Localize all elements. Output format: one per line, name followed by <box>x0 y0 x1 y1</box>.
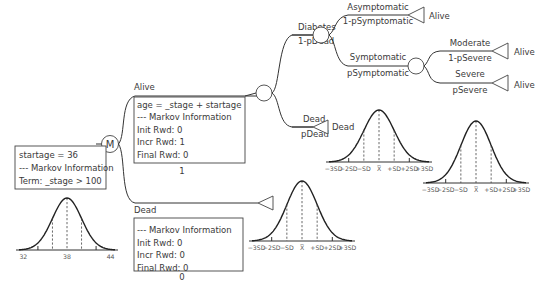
severe-prob: pSevere <box>453 85 488 95</box>
markov-node-symbol: M <box>106 139 115 150</box>
dead-info-line-3: Incr Rwd: 0 <box>137 250 185 260</box>
decision-tree-diagram: M startage = 36 --- Markov Information T… <box>0 0 550 281</box>
severe-label: Severe <box>455 69 484 79</box>
alive-info-line-2: --- Markov Information <box>137 112 232 122</box>
markov-info-box: startage = 36 --- Markov Information Ter… <box>15 146 114 189</box>
dead-dist-tick-label: −SD <box>357 165 371 172</box>
startage-dist-tick-label: 38 <box>63 253 71 260</box>
severe-dist-tick-label: +SD <box>484 186 498 193</box>
alive-state-label: Alive <box>134 82 155 92</box>
startage-distribution-curve[interactable]: 323844 <box>16 198 118 260</box>
dead-info-line-2: Init Rwd: 0 <box>137 238 183 248</box>
moderate-prob: 1-pSevere <box>448 53 491 63</box>
startage-dist-tick-label: 44 <box>107 253 115 260</box>
dead-state-terminal[interactable] <box>258 196 273 210</box>
severe-dist-tick-label: −SD <box>454 186 468 193</box>
center-dist-tick-label: X̅ <box>300 244 305 251</box>
symptomatic-chance-node[interactable] <box>408 58 424 74</box>
severe-terminal[interactable] <box>492 75 508 91</box>
severe-dist-tick-label: +3SD <box>513 186 531 193</box>
symptomatic-label: Symptomatic <box>350 52 407 62</box>
dead-dist-tick-label: −2SD <box>340 165 358 172</box>
dead-info-box: --- Markov Information Init Rwd: 0 Incr … <box>134 218 243 273</box>
alive-info-line-3: Init Rwd: 0 <box>137 125 183 135</box>
moderate-terminal[interactable] <box>492 43 508 59</box>
center-dist-tick-label: −2SD <box>263 244 281 251</box>
markov-info-line-2: --- Markov Information <box>19 163 114 173</box>
center-dist-tick-label: +3SD <box>339 244 357 251</box>
markov-info-line-3: Term: _stage > 100 <box>18 176 102 186</box>
moderate-terminal-label: Alive <box>514 47 535 57</box>
center-dist-tick-label: +SD <box>310 244 324 251</box>
dead-dist-tick-label: X̅ <box>377 165 382 172</box>
dead-dist-tick-label: +SD <box>387 165 401 172</box>
alive-info-line-5: Final Rwd: 0 <box>137 150 189 160</box>
severe-dist-tick-label: −2SD <box>437 186 455 193</box>
center-dist-tick-label: −SD <box>280 244 294 251</box>
asymptomatic-label: Asymptomatic <box>347 2 409 12</box>
moderate-label: Moderate <box>450 38 490 48</box>
dead-state-prob: 0 <box>179 272 184 281</box>
alive-info-box: age = _stage + startage --- Markov Infor… <box>134 97 245 163</box>
severe-dist-tick-label: X̅ <box>474 186 479 193</box>
severe-terminal-label: Alive <box>514 80 535 90</box>
asymptomatic-prob: 1-pSymptomatic <box>343 16 414 26</box>
distribution-curve-center[interactable]: −3SD−2SD−SDX̅+SD+2SD+3SD <box>248 181 357 251</box>
alive-info-line-4: Incr Rwd: 1 <box>137 137 185 147</box>
dead-sub-terminal-label: Dead <box>332 122 354 132</box>
dead-dist-tick-label: +3SD <box>416 165 434 172</box>
distribution-curve-severe[interactable]: −3SD−2SD−SDX̅+SD+2SD+3SD <box>422 121 531 193</box>
diabetes-chance-node[interactable] <box>313 27 329 43</box>
alive-state-prob: 1 <box>179 166 184 176</box>
startage-dist-tick-label: 32 <box>19 253 27 260</box>
alive-chance-node[interactable] <box>256 85 272 101</box>
markov-info-line-1: startage = 36 <box>19 150 78 160</box>
asymptomatic-terminal-label: Alive <box>429 11 450 21</box>
dead-info-line-1: --- Markov Information <box>137 225 232 235</box>
distribution-curve-dead[interactable]: −3SD−2SD−SDX̅+SD+2SD+3SD <box>325 110 434 172</box>
alive-info-line-1: age = _stage + startage <box>137 100 241 110</box>
dead-state-label: Dead <box>134 205 156 215</box>
symptomatic-prob: pSymptomatic <box>347 68 409 78</box>
